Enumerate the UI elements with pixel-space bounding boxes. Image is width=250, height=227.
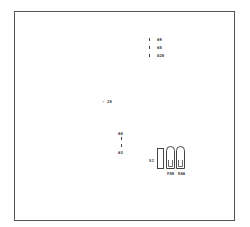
component-pin-label: FA9 xyxy=(167,171,174,176)
component-outline-icon xyxy=(0,0,250,227)
component-pin-label: EA6 xyxy=(178,171,185,176)
